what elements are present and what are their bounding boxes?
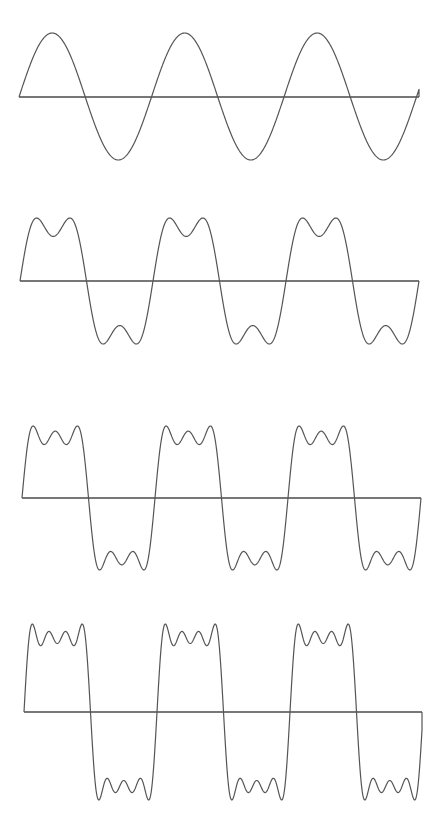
waveform-panel-2 <box>20 218 419 344</box>
fourier-square-wave-figure <box>0 0 441 832</box>
waveform-panel-3 <box>22 426 421 570</box>
waveform-panel-1 <box>19 33 419 160</box>
waveform-panel-4 <box>24 624 422 800</box>
